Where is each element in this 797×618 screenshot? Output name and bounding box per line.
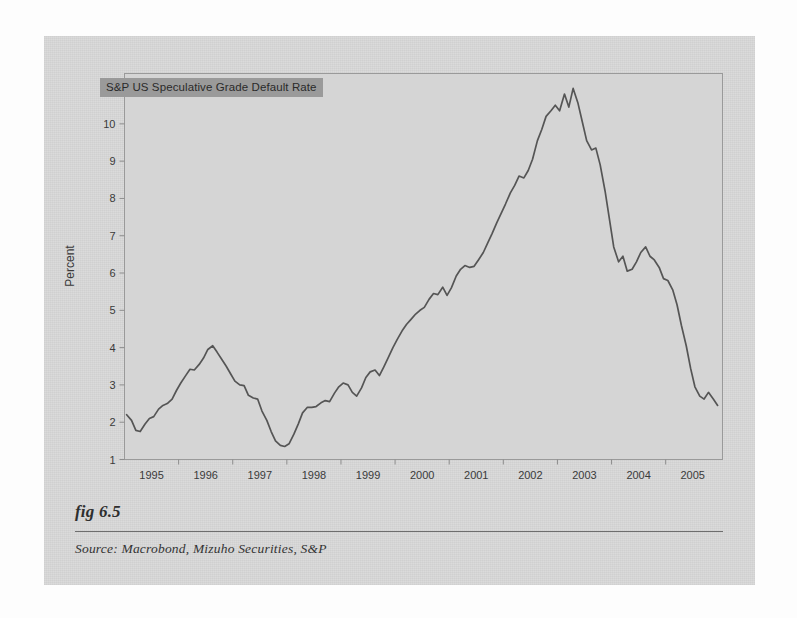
- x-axis-ticks: [179, 460, 666, 465]
- y-axis-title: Percent: [63, 245, 77, 287]
- y-axis-tick-labels: 1234567891011: [103, 81, 115, 466]
- y-tick-label: 2: [109, 416, 115, 428]
- y-tick-label: 4: [109, 342, 115, 354]
- x-tick-label: 1997: [248, 469, 272, 481]
- figure-card: 1234567891011 19951996199719981999200020…: [44, 36, 755, 585]
- chart-plot-region: 1234567891011 19951996199719981999200020…: [44, 36, 755, 496]
- x-tick-label: 1996: [193, 469, 217, 481]
- y-tick-label: 1: [109, 454, 115, 466]
- y-tick-label: 10: [103, 118, 115, 130]
- x-tick-label: 2001: [464, 469, 488, 481]
- caption-divider: [75, 531, 723, 532]
- figure-caption-block: fig 6.5 Source: Macrobond, Mizuho Securi…: [44, 502, 755, 585]
- y-tick-label: 7: [109, 230, 115, 242]
- page-root: 1234567891011 19951996199719981999200020…: [0, 0, 797, 618]
- line-chart-svg: 1234567891011 19951996199719981999200020…: [44, 36, 755, 496]
- x-tick-label: 2004: [626, 469, 650, 481]
- x-tick-label: 2002: [518, 469, 542, 481]
- y-tick-label: 3: [109, 379, 115, 391]
- y-tick-label: 5: [109, 304, 115, 316]
- x-tick-label: 1995: [139, 469, 163, 481]
- x-tick-label: 1998: [302, 469, 326, 481]
- x-tick-label: 2005: [680, 469, 704, 481]
- y-tick-label: 8: [109, 192, 115, 204]
- chart-legend-label: S&P US Speculative Grade Default Rate: [100, 78, 323, 97]
- figure-source-label: Source: Macrobond, Mizuho Securities, S&…: [75, 541, 327, 557]
- y-tick-label: 9: [109, 155, 115, 167]
- x-axis-tick-labels: 1995199619971998199920002001200220032004…: [139, 469, 705, 481]
- x-tick-label: 2003: [572, 469, 596, 481]
- y-axis-ticks: [120, 87, 125, 460]
- x-tick-label: 2000: [410, 469, 434, 481]
- x-tick-label: 1999: [356, 469, 380, 481]
- figure-number-label: fig 6.5: [75, 502, 121, 522]
- y-tick-label: 6: [109, 267, 115, 279]
